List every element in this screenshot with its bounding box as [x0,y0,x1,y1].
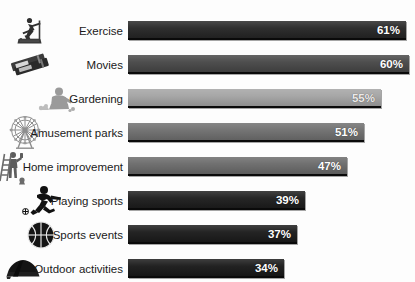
bar[interactable]: 60% [128,55,409,74]
bar-track: 34% [128,259,415,280]
bar-value: 60% [380,58,409,70]
chart-row: Playing sports 39% [0,184,415,218]
row-label: Outdoor activities [0,252,126,282]
chart-row: Exercise 61% [0,14,415,48]
bar-value: 39% [276,194,305,206]
bar-track: 47% [128,157,415,178]
bar-track: 51% [128,123,415,144]
row-label: Exercise [0,14,126,48]
row-label: Sports events [0,218,126,252]
bar-track: 60% [128,55,415,76]
bar[interactable]: 51% [128,123,364,142]
chart-row: Movies 60% [0,48,415,82]
bar[interactable]: 34% [128,259,284,278]
bar-value: 37% [268,228,297,240]
chart-row: Amusement parks 51% [0,116,415,150]
bar-value: 51% [335,126,364,138]
chart-row: Gardening 55% [0,82,415,116]
bar[interactable]: 55% [128,89,381,108]
row-label: Gardening [0,82,126,116]
chart-row: Home improvement 47% [0,150,415,184]
bar[interactable]: 37% [128,225,297,244]
bar-value: 47% [318,160,347,172]
row-label: Playing sports [0,184,126,218]
bar[interactable]: 61% [128,21,406,40]
chart-row: Sports events 37% [0,218,415,252]
bar-track: 39% [128,191,415,212]
bar-value: 34% [255,262,284,274]
bar-track: 37% [128,225,415,246]
bar-track: 61% [128,21,415,42]
chart-title [0,0,415,3]
bar[interactable]: 39% [128,191,305,210]
bar-track: 55% [128,89,415,110]
chart-rows: Exercise 61% [0,14,415,282]
chart-row: Outdoor activities 34% [0,252,415,282]
row-label: Amusement parks [0,116,126,150]
row-label: Movies [0,48,126,82]
bar[interactable]: 47% [128,157,347,176]
row-label: Home improvement [0,150,126,184]
bar-value: 55% [352,92,381,104]
bar-value: 61% [377,24,406,36]
activity-participation-chart: Exercise 61% [0,0,415,282]
